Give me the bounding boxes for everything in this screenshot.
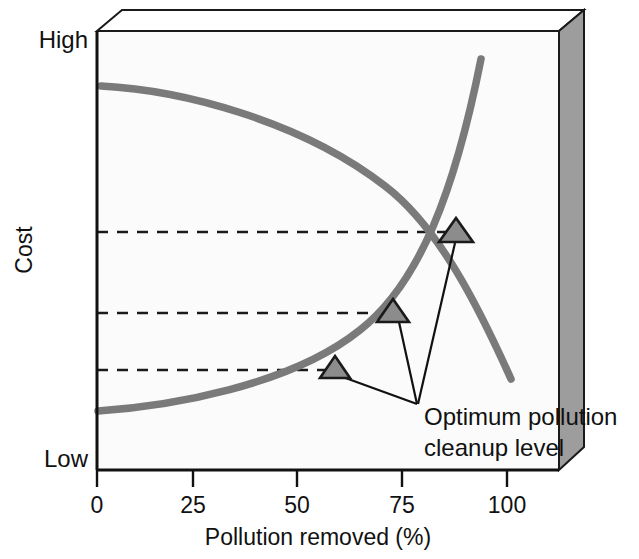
box-top-bevel (97, 10, 584, 31)
y-axis-high-label: High (39, 26, 88, 53)
x-tick-label-75: 75 (389, 492, 415, 518)
box-right-bevel (559, 10, 584, 470)
x-tick-label-100: 100 (488, 492, 526, 518)
x-tick-label-50: 50 (284, 492, 310, 518)
annotation-line-2: cleanup level (424, 434, 564, 461)
x-axis-title: Pollution removed (%) (205, 524, 431, 550)
x-tick-label-25: 25 (180, 492, 206, 518)
y-axis-low-label: Low (44, 445, 89, 472)
chart-figure: 0 25 50 75 100 Pollution removed (%) Hig… (0, 0, 639, 559)
x-tick-label-0: 0 (91, 492, 104, 518)
annotation-line-1: Optimum pollution (424, 403, 617, 430)
x-axis-ticks (97, 470, 507, 487)
y-axis-title: Cost (11, 226, 37, 274)
chart-canvas: 0 25 50 75 100 Pollution removed (%) Hig… (0, 0, 639, 559)
